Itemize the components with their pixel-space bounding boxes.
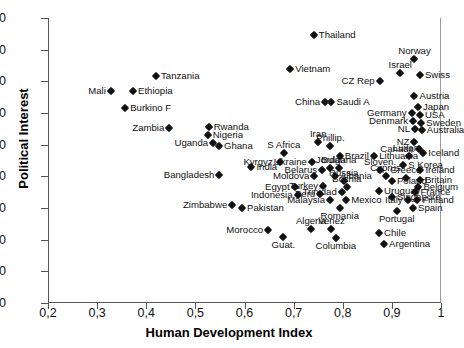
data-point-marker — [129, 87, 137, 95]
data-point-label: Thailand — [319, 30, 356, 40]
data-point-label: CZ Rep — [342, 76, 375, 86]
data-point-marker — [396, 69, 404, 77]
data-point-label: Australia — [427, 125, 464, 135]
y-tick-label: 20 — [0, 233, 6, 247]
data-point-label: Italy — [385, 195, 403, 205]
data-point-label: S Africa — [267, 140, 300, 150]
y-tick-label: 10 — [0, 264, 6, 278]
y-tick-label: 60 — [0, 106, 6, 120]
data-point-label: Chile — [384, 228, 406, 238]
data-point-label: Swiss — [425, 70, 450, 80]
data-point-marker — [418, 126, 426, 134]
data-point-label: Pakistan — [247, 203, 284, 213]
x-tick-mark — [146, 303, 147, 309]
data-point-marker — [375, 229, 383, 237]
data-point-label: Zambia — [132, 123, 164, 133]
data-point-marker — [215, 171, 223, 179]
y-tick-mark — [41, 81, 48, 82]
y-tick-mark — [41, 176, 48, 177]
data-point-marker — [107, 87, 115, 95]
data-point-marker — [326, 142, 334, 150]
data-point-marker — [409, 204, 417, 212]
data-point-label: Mexico — [351, 195, 381, 205]
data-point-marker — [204, 123, 212, 131]
data-point-label: Bangladesh — [164, 170, 215, 180]
data-point-marker — [409, 117, 417, 125]
data-point-marker — [380, 240, 388, 248]
data-point-marker — [375, 77, 383, 85]
data-point-marker — [286, 64, 294, 72]
data-point-marker — [238, 204, 246, 212]
data-point-marker — [165, 124, 173, 132]
y-tick-label: 50 — [0, 138, 6, 152]
data-point-label: Argentina — [389, 239, 430, 249]
x-axis-title: Human Development Index — [0, 325, 458, 340]
data-point-marker — [228, 201, 236, 209]
data-point-label: Venez — [318, 216, 345, 226]
x-tick-mark — [195, 303, 196, 309]
data-point-label: Iceland — [428, 148, 459, 158]
data-point-label: Columbia — [316, 241, 357, 251]
data-point-label: Vietnam — [295, 64, 330, 74]
y-tick-label: 30 — [0, 201, 6, 215]
data-point-label: Guat. — [272, 240, 295, 250]
data-point-label: Nigeria — [213, 130, 243, 140]
x-tick-mark — [294, 303, 295, 309]
y-tick-mark — [41, 50, 48, 51]
y-tick-mark — [41, 303, 48, 304]
data-point-label: Bulgaria — [321, 155, 356, 165]
y-tick-mark — [41, 18, 48, 19]
y-tick-label: 70 — [0, 74, 6, 88]
data-point-label: Israel — [389, 60, 412, 70]
data-point-label: Tanzania — [161, 71, 199, 81]
data-point-label: China — [295, 97, 320, 107]
data-point-label: Portugal — [379, 214, 415, 224]
data-point-marker — [407, 109, 415, 117]
data-point-marker — [307, 224, 315, 232]
data-point-label: Mali — [88, 86, 106, 96]
data-point-marker — [327, 224, 335, 232]
data-point-label: Saudi A — [336, 97, 369, 107]
data-point-label: Austria — [419, 91, 449, 101]
plot-area: ThailandNorwayVietnamTanzaniaIsraelSwiss… — [48, 18, 441, 303]
data-point-label: Phillip. — [316, 133, 344, 143]
data-point-label: Uganda — [174, 138, 208, 148]
data-point-label: Bosnia — [332, 174, 361, 184]
data-point-label: Greece — [390, 165, 421, 175]
y-axis-title: Political Interest — [16, 59, 31, 219]
data-point-marker — [121, 104, 129, 112]
y-tick-mark — [41, 113, 48, 114]
data-point-label: Ethiopia — [138, 86, 173, 96]
x-tick-mark — [245, 303, 246, 309]
data-point-marker — [416, 71, 424, 79]
data-point-marker — [264, 226, 272, 234]
y-tick-mark — [41, 240, 48, 241]
data-point-label: Spain — [418, 203, 443, 213]
x-tick-mark — [48, 303, 49, 309]
y-tick-mark — [41, 208, 48, 209]
data-point-label: Norway — [398, 46, 431, 56]
data-point-marker — [152, 71, 160, 79]
y-tick-label: 90 — [0, 11, 6, 25]
y-tick-mark — [41, 145, 48, 146]
data-point-marker — [410, 91, 418, 99]
data-point-label: Morocco — [226, 225, 263, 235]
y-tick-label: 0 — [0, 296, 6, 310]
data-point-label: Luxem. — [393, 143, 424, 153]
x-tick-mark — [97, 303, 98, 309]
data-point-marker — [342, 196, 350, 204]
data-point-marker — [215, 142, 223, 150]
data-point-marker — [310, 31, 318, 39]
data-point-label: NL — [398, 124, 410, 134]
data-point-label: Ghana — [224, 141, 253, 151]
data-point-marker — [414, 102, 422, 110]
data-point-label: Burkino F — [130, 103, 171, 113]
y-tick-label: 80 — [0, 43, 6, 57]
x-tick-mark — [441, 303, 442, 309]
data-point-label: Zimbabwe — [183, 200, 227, 210]
y-tick-mark — [41, 271, 48, 272]
x-tick-mark — [343, 303, 344, 309]
y-tick-label: 40 — [0, 169, 6, 183]
x-tick-mark — [392, 303, 393, 309]
